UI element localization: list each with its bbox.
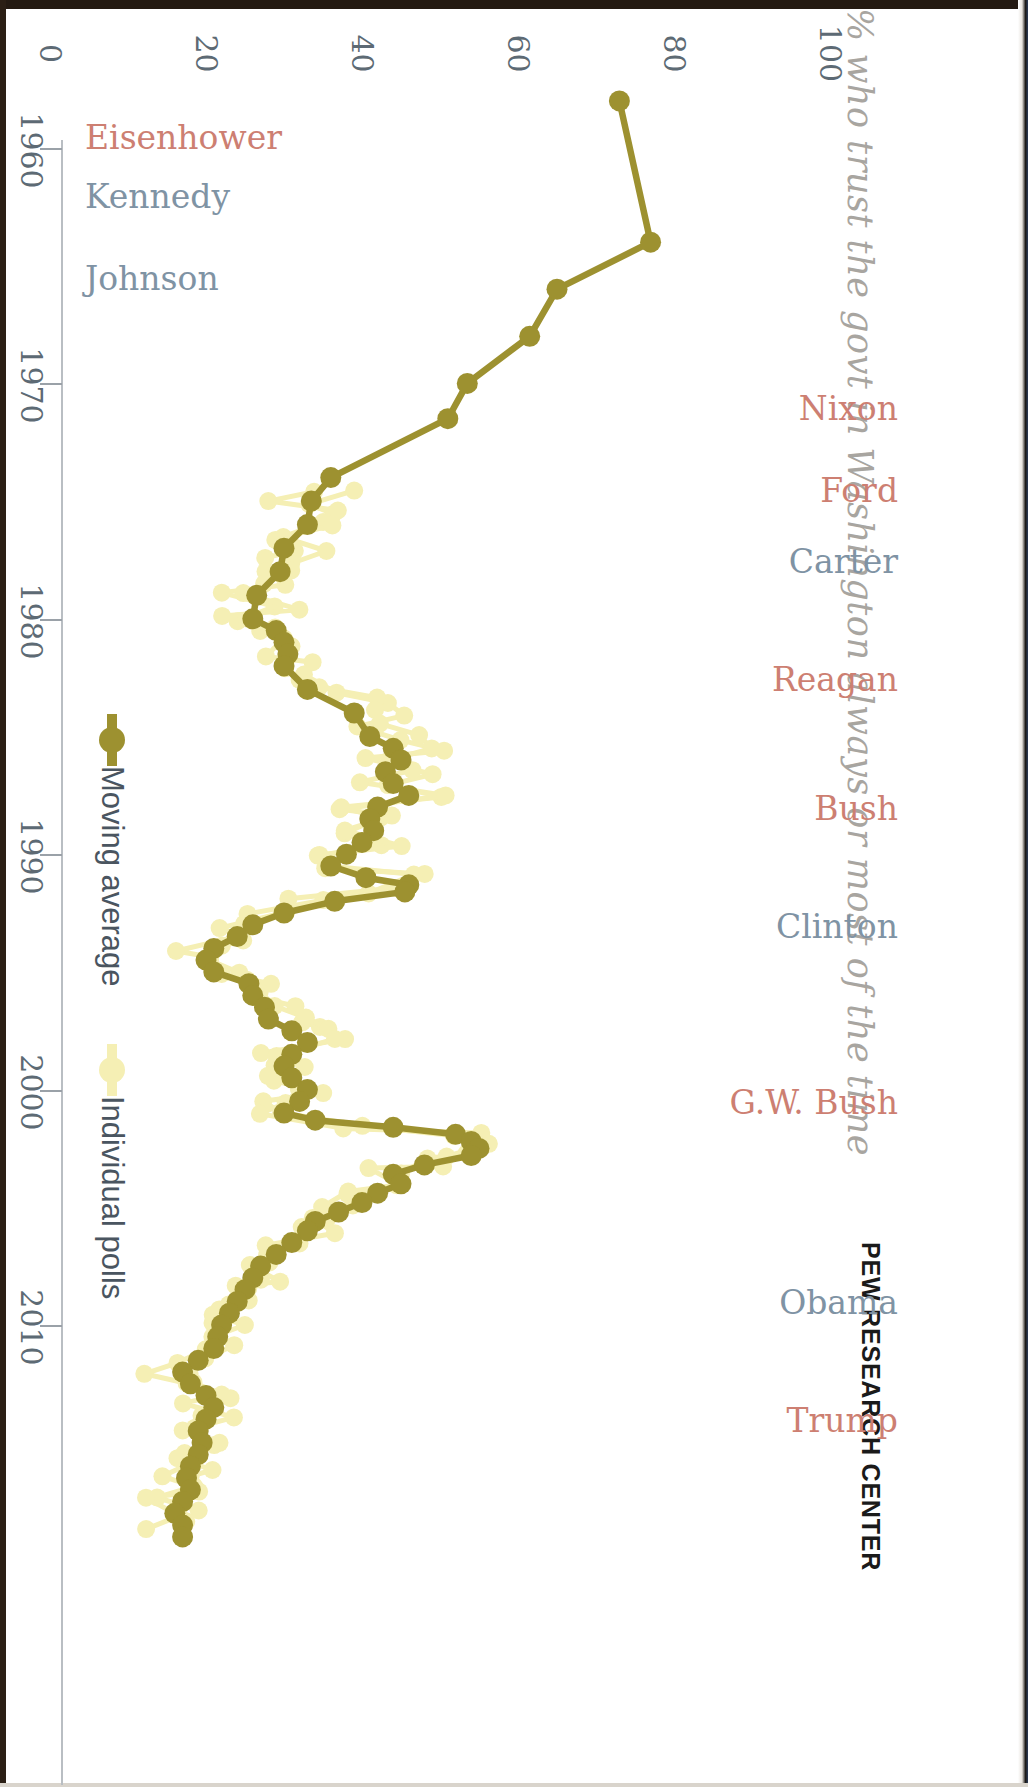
data-point [257, 647, 275, 665]
plot-svg [0, 0, 1028, 1787]
data-point [204, 1461, 222, 1479]
data-point [301, 491, 322, 512]
data-point [297, 679, 318, 700]
data-point [351, 773, 369, 791]
data-point [336, 822, 354, 840]
data-point [355, 867, 376, 888]
data-point [317, 542, 335, 560]
data-point [274, 655, 295, 676]
data-point [251, 1105, 269, 1123]
data-point [345, 482, 363, 500]
data-point [274, 903, 295, 924]
data-point [326, 1030, 344, 1048]
data-point [324, 891, 345, 912]
data-point [274, 538, 295, 559]
data-point [227, 926, 248, 947]
data-point [172, 1526, 193, 1547]
data-point [393, 837, 411, 855]
data-point [213, 607, 231, 625]
data-point [360, 1159, 378, 1177]
data-point [167, 942, 185, 960]
data-point [423, 739, 441, 757]
data-point [320, 467, 341, 488]
data-point [394, 881, 415, 902]
data-point [344, 703, 365, 724]
data-point [437, 786, 455, 804]
data-point [213, 584, 231, 602]
data-point [391, 1173, 412, 1194]
data-point [246, 585, 267, 606]
data-point [271, 1273, 289, 1291]
data-point [331, 800, 349, 818]
data-point [398, 785, 419, 806]
data-point [395, 707, 413, 725]
data-point [519, 326, 540, 347]
data-point [137, 1520, 155, 1538]
data-point [359, 726, 380, 747]
data-point [383, 1117, 404, 1138]
data-point [252, 1044, 270, 1062]
data-point [457, 373, 478, 394]
plot-area [0, 0, 1028, 1787]
data-point [290, 601, 308, 619]
data-point [211, 919, 229, 937]
data-point [437, 408, 458, 429]
data-point [135, 1365, 153, 1383]
data-point [274, 1103, 295, 1124]
data-point [174, 1394, 192, 1412]
data-point [461, 1145, 482, 1166]
data-point [242, 608, 263, 629]
data-point [305, 1110, 326, 1131]
data-point [424, 765, 442, 783]
chart-page: % who trust the govt in Washington alway… [0, 0, 1028, 1787]
data-point [414, 1154, 435, 1175]
data-point [640, 232, 661, 253]
data-point [410, 726, 428, 744]
data-point [323, 516, 341, 534]
data-point [258, 1009, 279, 1030]
data-point [357, 749, 375, 767]
data-point [352, 1192, 373, 1213]
data-point [137, 1489, 155, 1507]
data-point [259, 492, 277, 510]
data-point [328, 1202, 349, 1223]
data-point [547, 279, 568, 300]
data-point [297, 514, 318, 535]
data-point [326, 1224, 344, 1242]
data-point [609, 90, 630, 111]
data-point [320, 856, 341, 877]
data-point [203, 961, 224, 982]
data-point [270, 561, 291, 582]
data-point [236, 1316, 254, 1334]
data-point [225, 1408, 243, 1426]
data-point [153, 1467, 171, 1485]
